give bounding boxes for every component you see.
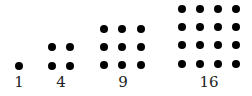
- dot: [100, 25, 108, 33]
- dot: [100, 61, 108, 69]
- dot: [214, 41, 222, 49]
- dot: [118, 25, 126, 33]
- dot: [137, 43, 145, 51]
- dot: [232, 23, 240, 31]
- dot: [118, 61, 126, 69]
- dot: [178, 60, 186, 68]
- label-4: 4: [56, 74, 66, 90]
- dot: [137, 61, 145, 69]
- dot: [214, 60, 222, 68]
- dot: [232, 5, 240, 13]
- label-9: 9: [118, 74, 128, 90]
- dot: [232, 41, 240, 49]
- label-16: 16: [199, 74, 218, 90]
- dot: [66, 62, 74, 70]
- square-numbers-diagram: 1 4 9 16: [0, 0, 252, 96]
- dot: [196, 41, 204, 49]
- dot: [48, 62, 56, 70]
- dot: [178, 5, 186, 13]
- dot: [48, 43, 56, 51]
- dot: [196, 60, 204, 68]
- dot: [118, 43, 126, 51]
- dot: [196, 5, 204, 13]
- dot: [137, 25, 145, 33]
- dot: [196, 23, 204, 31]
- dot: [214, 5, 222, 13]
- dot: [15, 62, 23, 70]
- label-1: 1: [14, 74, 24, 90]
- dot: [178, 41, 186, 49]
- dot: [232, 60, 240, 68]
- dot: [214, 23, 222, 31]
- dot: [66, 43, 74, 51]
- dot: [178, 23, 186, 31]
- dot: [100, 43, 108, 51]
